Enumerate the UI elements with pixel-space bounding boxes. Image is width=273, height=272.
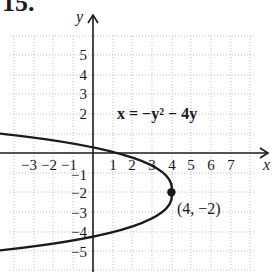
svg-text:−3: −3	[71, 205, 87, 221]
svg-text:1: 1	[109, 157, 117, 173]
svg-text:−2: −2	[71, 185, 87, 201]
svg-text:3: 3	[80, 86, 88, 102]
svg-text:−2: −2	[41, 157, 57, 173]
svg-text:2: 2	[80, 106, 88, 122]
svg-text:−1: −1	[71, 167, 87, 183]
graph: y x −3 −2 −1 1 2 3 4 5 6 7 5 4 3 2 −1 −2…	[0, 0, 273, 272]
equation-label: x = −y² − 4y	[117, 105, 197, 123]
svg-text:5: 5	[187, 157, 195, 173]
svg-text:5: 5	[80, 47, 88, 63]
vertex-label: (4, −2)	[177, 200, 221, 218]
svg-text:−5: −5	[71, 244, 87, 260]
svg-text:4: 4	[80, 67, 88, 83]
svg-text:7: 7	[227, 157, 235, 173]
y-axis-label: y	[74, 8, 84, 26]
svg-text:4: 4	[168, 157, 176, 173]
x-tick-labels: −3 −2 −1 1 2 3 4 5 6 7	[21, 157, 235, 173]
x-axis-label: x	[262, 156, 270, 173]
svg-text:−3: −3	[21, 157, 37, 173]
axes	[0, 15, 268, 272]
vertex-point	[167, 188, 175, 196]
svg-text:6: 6	[207, 157, 215, 173]
